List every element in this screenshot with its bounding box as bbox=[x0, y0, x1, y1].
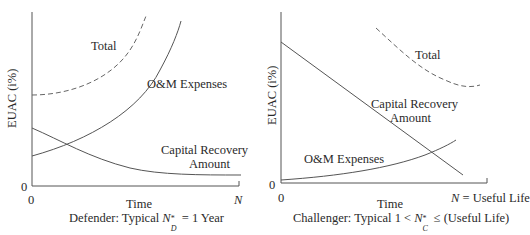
challenger-cr-label-2: Amount bbox=[390, 112, 431, 125]
challenger-x-tick-rest: = Useful Life bbox=[459, 191, 530, 205]
defender-y-tick-0: 0 bbox=[21, 181, 27, 194]
challenger-x-axis-label: Time bbox=[377, 198, 403, 211]
challenger-ylabel-text: EUAC (i%) bbox=[265, 66, 279, 125]
defender-cr-label-1: Capital Recovery bbox=[161, 144, 248, 157]
defender-caption-sup: * bbox=[171, 215, 175, 223]
defender-x-tick-n: N bbox=[234, 194, 242, 207]
defender-y-axis-label: EUAC (i%) bbox=[6, 69, 19, 128]
challenger-caption-sup: * bbox=[423, 215, 427, 223]
challenger-om-label: O&M Expenses bbox=[304, 153, 384, 166]
challenger-x-tick-end: N = Useful Life bbox=[451, 192, 530, 205]
challenger-y-axis-label: EUAC (i%) bbox=[266, 66, 279, 125]
challenger-caption-sub: C bbox=[423, 225, 428, 233]
challenger-caption-symbol: N bbox=[414, 211, 422, 225]
challenger-caption: Challenger: Typical 1 < N*C ≤ (Useful Li… bbox=[293, 212, 509, 225]
defender-caption-symbol: N bbox=[162, 211, 170, 225]
challenger-x-tick-0: 0 bbox=[278, 192, 284, 205]
defender-caption-suffix: = 1 Year bbox=[179, 211, 224, 225]
defender-cr-label-2: Amount bbox=[189, 158, 230, 171]
defender-om-label: O&M Expenses bbox=[147, 78, 227, 91]
defender-x-tick-0: 0 bbox=[28, 194, 34, 207]
defender-ylabel-text: EUAC (i%) bbox=[5, 69, 19, 128]
defender-x-axis-label: Time bbox=[126, 198, 152, 211]
challenger-caption-prefix: Challenger: Typical 1 < bbox=[293, 211, 414, 225]
challenger-caption-suffix: ≤ (Useful Life) bbox=[431, 211, 510, 225]
defender-caption: Defender: Typical N*D = 1 Year bbox=[69, 212, 224, 225]
challenger-cr-label-1: Capital Recovery bbox=[371, 98, 458, 111]
defender-caption-prefix: Defender: Typical bbox=[69, 211, 162, 225]
challenger-total-label: Total bbox=[415, 49, 441, 62]
defender-total-label: Total bbox=[91, 40, 117, 53]
challenger-y-tick-0: 0 bbox=[269, 179, 275, 192]
defender-total-curve bbox=[32, 16, 146, 95]
defender-caption-sub: D bbox=[171, 225, 177, 233]
